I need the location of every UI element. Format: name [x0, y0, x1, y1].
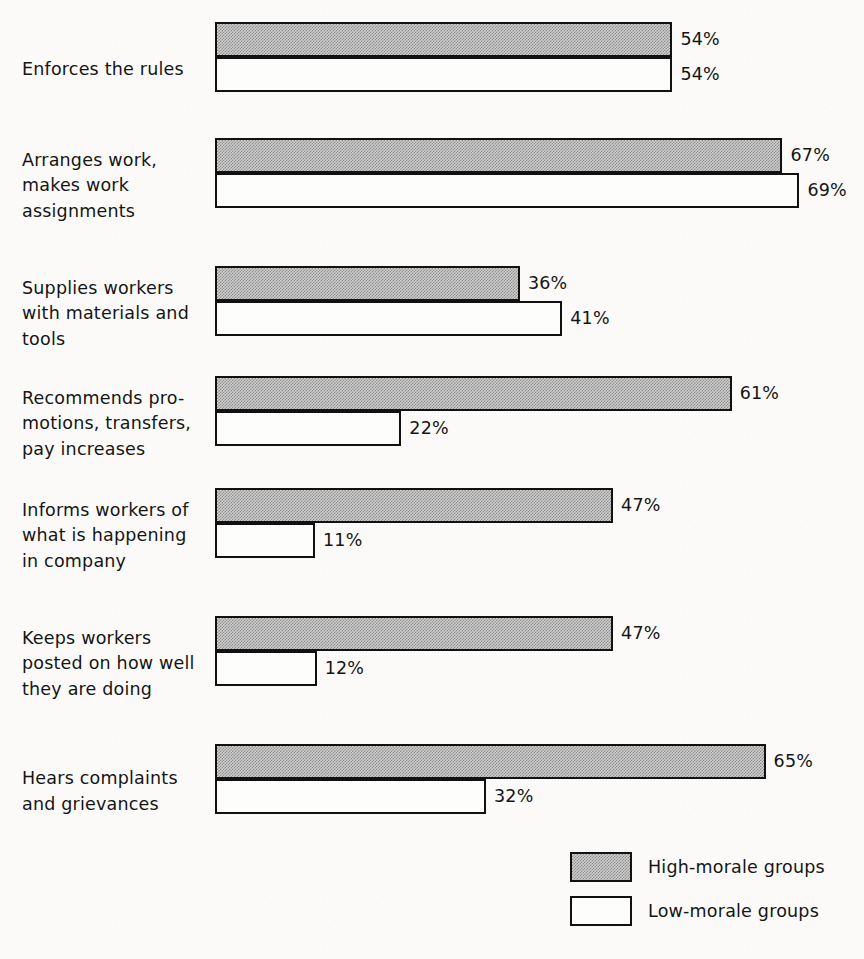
legend-label-low-morale: Low-morale groups	[648, 896, 819, 926]
bar-value-label: 47%	[621, 616, 661, 651]
bar-low-morale[interactable]	[215, 651, 317, 686]
bar-value-label: 67%	[790, 138, 830, 173]
legend-swatch-low-morale	[570, 896, 632, 926]
bar-high-morale[interactable]	[215, 488, 613, 523]
bar-value-label: 32%	[494, 779, 534, 814]
category-label: Recommends pro- motions, transfers, pay …	[22, 386, 207, 463]
bar-value-label: 69%	[807, 173, 847, 208]
bar-value-label: 54%	[680, 22, 720, 57]
bar-high-morale[interactable]	[215, 138, 782, 173]
bar-low-morale[interactable]	[215, 523, 315, 558]
legend-swatch-high-morale	[570, 852, 632, 882]
category-label: Enforces the rules	[22, 57, 207, 83]
category-label: Arranges work, makes work assignments	[22, 148, 207, 225]
bar-value-label: 47%	[621, 488, 661, 523]
bar-low-morale[interactable]	[215, 173, 799, 208]
bar-value-label: 36%	[528, 266, 568, 301]
bar-high-morale[interactable]	[215, 616, 613, 651]
bar-value-label: 22%	[409, 411, 449, 446]
bar-value-label: 61%	[740, 376, 780, 411]
bar-value-label: 12%	[325, 651, 365, 686]
bar-value-label: 41%	[570, 301, 610, 336]
bar-low-morale[interactable]	[215, 301, 562, 336]
bar-high-morale[interactable]	[215, 266, 520, 301]
category-label: Keeps workers posted on how well they ar…	[22, 626, 207, 703]
bar-value-label: 54%	[680, 57, 720, 92]
category-label: Supplies workers with materials and tool…	[22, 276, 207, 353]
category-label: Informs workers of what is happening in …	[22, 498, 207, 575]
bar-value-label: 65%	[774, 744, 814, 779]
bar-high-morale[interactable]	[215, 744, 766, 779]
legend-label-high-morale: High-morale groups	[648, 852, 825, 882]
horizontal-bar-chart: Enforces the rules54%54%Arranges work, m…	[0, 0, 864, 959]
category-label: Hears complaints and grievances	[22, 766, 207, 817]
bar-low-morale[interactable]	[215, 57, 672, 92]
bar-low-morale[interactable]	[215, 411, 401, 446]
bar-high-morale[interactable]	[215, 376, 732, 411]
bar-value-label: 11%	[323, 523, 363, 558]
bar-low-morale[interactable]	[215, 779, 486, 814]
bar-high-morale[interactable]	[215, 22, 672, 57]
